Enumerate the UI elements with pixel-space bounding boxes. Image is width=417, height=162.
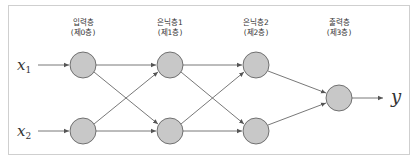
input-label-x2: x2 <box>17 122 31 141</box>
node-l1-1 <box>157 52 183 78</box>
nodes <box>70 52 352 144</box>
network-graph <box>0 0 417 162</box>
node-l0-2 <box>70 118 96 144</box>
node-l0-1 <box>70 52 96 78</box>
node-l3-1 <box>326 85 352 111</box>
output-label-y: y <box>391 86 401 107</box>
node-l1-2 <box>157 118 183 144</box>
node-l2-1 <box>243 52 269 78</box>
node-l2-2 <box>243 118 269 144</box>
input-label-x1: x1 <box>17 56 31 75</box>
